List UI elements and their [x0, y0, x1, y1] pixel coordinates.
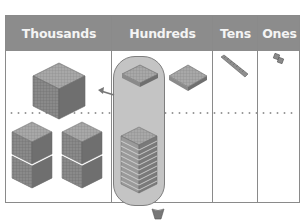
thousand-cubes-stack-icon — [10, 120, 110, 202]
hundred-flats-stack-icon — [119, 126, 159, 196]
header-tens: Tens — [213, 16, 258, 51]
exchange-arrow-icon — [96, 86, 116, 100]
thousand-cube-icon — [31, 61, 87, 121]
header-thousands: Thousands — [6, 16, 112, 51]
table-header: Thousands Hundreds Tens Ones — [6, 16, 299, 51]
hundred-flat-icon — [168, 64, 208, 94]
ones-cubes-icon — [272, 53, 286, 67]
hundred-flat-icon — [121, 64, 159, 90]
column-divider — [212, 16, 213, 202]
column-divider — [111, 16, 112, 202]
header-hundreds: Hundreds — [112, 16, 213, 51]
ten-rod-icon — [219, 54, 249, 80]
place-value-table: Thousands Hundreds Tens Ones — [5, 15, 300, 203]
pointer-tab-icon — [151, 208, 165, 220]
header-ones: Ones — [258, 16, 301, 51]
column-divider — [257, 16, 258, 202]
